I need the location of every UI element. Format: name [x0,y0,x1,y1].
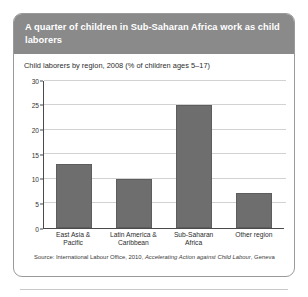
x-tick-label: Sub-SaharanAfrica [164,229,224,252]
bar[interactable] [176,105,212,228]
source-suffix: , Geneva [251,254,275,260]
x-tick-label: Other region [224,229,284,252]
y-tick-label: 30 [32,77,39,84]
source-title: Accelerating Action against Child Labour [145,254,251,260]
figure-card: A quarter of children in Sub-Saharan Afr… [13,13,295,277]
chart-subtitle: Child laborers by region, 2008 (% of chi… [24,61,284,71]
y-axis-tick-labels: 051015202530 [24,81,43,229]
x-tick-label-line: Africa [164,239,224,247]
y-tick-label: 20 [32,127,39,134]
bar-slot [44,81,104,228]
bar[interactable] [236,193,272,227]
x-tick-label-line: East Asia & [43,231,103,239]
bar-slot [224,81,284,228]
figure-body: Child laborers by region, 2008 (% of chi… [14,54,294,261]
x-tick-label-line: Pacific [43,239,103,247]
bar-series [44,81,284,228]
x-tick-label-line: Other region [224,231,284,239]
bar[interactable] [116,179,152,228]
plot-area [43,81,284,229]
x-axis-tick-labels: East Asia &PacificLatin America &Caribbe… [43,229,284,252]
bar[interactable] [56,164,92,228]
y-tick-label: 0 [35,225,39,232]
y-tick-label: 25 [32,102,39,109]
x-tick-label-line: Caribbean [103,239,163,247]
x-tick-label: Latin America &Caribbean [103,229,163,252]
x-tick-label-line: Latin America & [103,231,163,239]
page-divider [20,289,288,290]
x-tick-label-line: Sub-Saharan [164,231,224,239]
y-tick-label: 10 [32,176,39,183]
source-prefix: Source: International Labour Office, 201… [34,254,145,260]
bar-slot [164,81,224,228]
y-tick-label: 5 [35,201,39,208]
bar-slot [104,81,164,228]
figure-title: A quarter of children in Sub-Saharan Afr… [14,14,294,54]
y-tick-label: 15 [32,151,39,158]
x-tick-label: East Asia &Pacific [43,229,103,252]
chart-plot: 051015202530 East Asia &PacificLatin Ame… [24,77,286,252]
source-note: Source: International Labour Office, 201… [24,252,284,261]
